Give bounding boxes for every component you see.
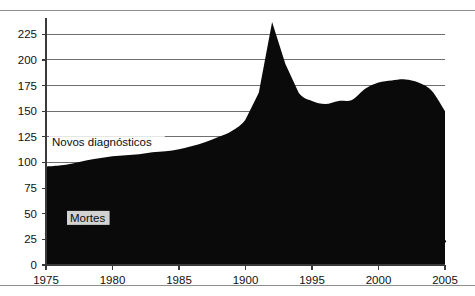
x-tick-label-1900: 1900 [233, 274, 259, 284]
y-tick-label-225: 225 [18, 28, 37, 40]
chart-area: 0255075100125150175200225 19751980198519… [0, 12, 475, 284]
y-tick-label-50: 50 [24, 208, 37, 220]
y-tick-label-25: 25 [24, 233, 37, 245]
x-tick-label-2000: 2000 [366, 274, 392, 284]
y-tick-label-175: 175 [18, 80, 37, 92]
y-tick-label-75: 75 [24, 182, 37, 194]
x-tick-label-1995: 1995 [299, 274, 325, 284]
y-tick-label-125: 125 [18, 131, 37, 143]
line-area-chart: 0255075100125150175200225 19751980198519… [0, 12, 475, 284]
y-tick-label-0: 0 [31, 259, 37, 271]
annotation-novos-diagnosticos: Novos diagnósticos [52, 136, 152, 148]
x-tick-label-1980: 1980 [100, 274, 126, 284]
x-axis-tick-labels: 1975198019851900199520002005 [33, 274, 458, 284]
x-tick-label-2005: 2005 [432, 274, 458, 284]
y-axis-tick-labels: 0255075100125150175200225 [18, 28, 37, 271]
x-tick-label-1975: 1975 [33, 274, 59, 284]
y-tick-label-150: 150 [18, 105, 37, 117]
top-horizontal-rule [0, 10, 475, 11]
y-tick-label-100: 100 [18, 156, 37, 168]
figure-container: 0255075100125150175200225 19751980198519… [0, 0, 475, 296]
y-tick-label-200: 200 [18, 54, 37, 66]
x-tick-label-1985: 1985 [166, 274, 192, 284]
annotation-mortes: Mortes [70, 212, 105, 224]
bottom-horizontal-rule [0, 285, 475, 286]
